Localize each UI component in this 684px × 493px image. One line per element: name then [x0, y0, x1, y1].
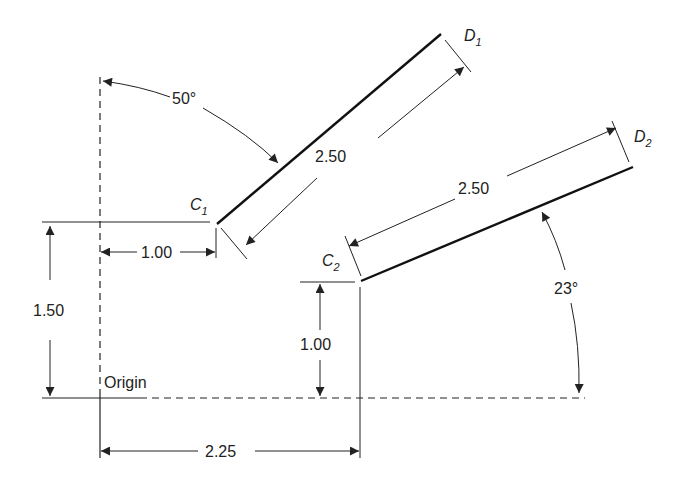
dimension-seg2-label: 2.50 [458, 180, 489, 197]
dimension-seg1-length: 2.50 [246, 67, 464, 245]
dimension-seg1-label: 2.50 [315, 148, 346, 165]
dimension-seg2-length: 2.50 [349, 128, 616, 246]
dimension-c1-dy: 1.50 [33, 226, 64, 396]
seg2-extension-d2 [612, 121, 629, 162]
seg1-extension-c1 [221, 228, 247, 259]
dimension-c2-dy: 1.00 [300, 284, 331, 396]
seg1-extension-d1 [445, 40, 471, 72]
dimension-c2-dx-label: 2.25 [205, 443, 236, 460]
angle-23-label: 23° [554, 280, 578, 297]
dimension-c1-dx-label: 1.00 [141, 244, 172, 261]
angle-23: 23° [542, 212, 579, 393]
point-d2-label: D2 [634, 128, 652, 149]
angle-50: 50° [103, 81, 278, 163]
segment-c2-d2 [361, 167, 633, 281]
angle-50-label: 50° [172, 90, 196, 107]
segment-c1-d1 [217, 34, 441, 224]
dimension-c2-dy-label: 1.00 [300, 336, 331, 353]
dimension-c1-dx: 1.00 [101, 244, 215, 261]
dimension-c1-dy-label: 1.50 [33, 302, 64, 319]
dimension-c2-dx: 2.25 [101, 443, 359, 460]
origin-label: Origin [104, 374, 147, 391]
point-c2-label: C2 [322, 252, 340, 273]
point-c1-label: C1 [190, 196, 208, 217]
point-d1-label: D1 [464, 27, 482, 48]
dimension-drawing: Origin 1.50 1.00 2.50 50° C1 D1 [0, 0, 684, 493]
